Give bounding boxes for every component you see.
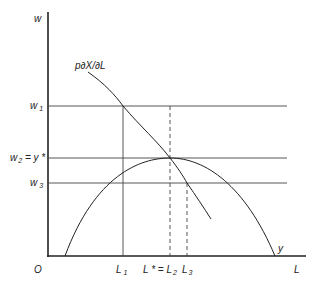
w3-label: w3 <box>30 177 43 189</box>
l1-label: L1 <box>116 264 128 276</box>
l-star-equals-l2-label: L * = L2 <box>143 264 177 276</box>
y-axis-label: w <box>34 13 42 24</box>
x-axis-label: L <box>294 264 300 275</box>
svg-text:w1: w1 <box>30 100 43 112</box>
w1-label: w1 <box>30 100 43 112</box>
svg-text:L1: L1 <box>116 264 128 276</box>
svg-text:L * = L2: L * = L2 <box>143 264 177 276</box>
origin-label: O <box>34 264 42 275</box>
wage-labor-diagram: w L O p∂X/∂L y w1 w2 = y * w3 L1 L * = L… <box>0 0 314 283</box>
marginal-product-label: p∂X/∂L <box>74 60 105 71</box>
svg-text:w3: w3 <box>30 177 43 189</box>
l3-label: L3 <box>182 264 193 276</box>
svg-text:L3: L3 <box>182 264 193 276</box>
marginal-product-curve <box>88 72 211 219</box>
w2-label: w2 = y * <box>10 152 46 164</box>
svg-text:w2 = y *: w2 = y * <box>10 152 46 164</box>
output-curve-label: y <box>277 243 284 254</box>
